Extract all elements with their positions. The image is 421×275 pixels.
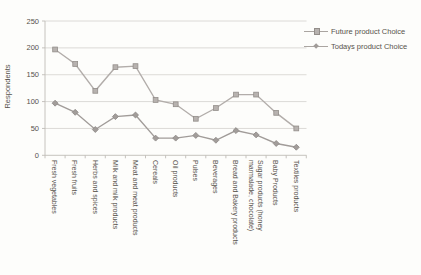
legend: Future product Choice Todays product Cho… <box>304 24 407 54</box>
diamond-marker <box>293 144 299 150</box>
diamond-marker-icon <box>313 43 319 49</box>
diamond-marker <box>253 132 259 138</box>
diamond-marker <box>213 137 219 143</box>
x-axis-label: Fresh vegetables <box>50 160 59 214</box>
y-axis-title: Respondents <box>3 57 12 117</box>
legend-item-today: Todays product Choice <box>304 39 407 54</box>
square-marker <box>294 126 299 131</box>
square-marker <box>274 110 279 115</box>
legend-label-today: Todays product Choice <box>331 42 407 51</box>
y-axis-tick-label: 200 <box>13 43 39 52</box>
square-marker <box>133 64 138 69</box>
square-marker <box>93 88 98 93</box>
legend-item-future: Future product Choice <box>304 24 407 39</box>
x-axis-label: Bread and Bakery products <box>231 160 240 245</box>
square-marker <box>173 102 178 107</box>
square-marker <box>254 92 259 97</box>
diamond-marker <box>193 132 199 138</box>
x-axis-label: Herbs and spices <box>90 160 99 214</box>
y-axis-tick-label: 0 <box>13 151 39 160</box>
x-axis-label: Oil products <box>170 160 179 197</box>
square-marker-icon <box>314 28 321 35</box>
series-line-future <box>55 50 296 129</box>
square-marker <box>234 92 239 97</box>
legend-label-future: Future product Choice <box>331 27 405 36</box>
legend-line <box>304 46 328 48</box>
x-axis-label: Fresh fruits <box>70 160 79 195</box>
x-axis-label: Baby Products <box>271 160 280 206</box>
line-chart: Respondents 050100150200250 Fresh vegeta… <box>0 0 421 275</box>
legend-line <box>304 31 328 33</box>
x-axis-label: Textiles products <box>291 160 300 212</box>
square-marker <box>153 98 158 103</box>
y-axis-tick-label: 50 <box>13 124 39 133</box>
diamond-marker <box>52 100 58 106</box>
x-axis-label: Beverages <box>211 160 220 193</box>
square-marker <box>113 65 118 70</box>
square-marker <box>73 62 78 67</box>
x-axis-label: Sugar products (honey marmalade, chocola… <box>247 160 264 231</box>
square-marker <box>193 116 198 121</box>
x-axis-label: Milk and milk products <box>110 160 119 229</box>
x-axis-label: Meat and meat products <box>130 160 139 236</box>
diamond-marker <box>173 135 179 141</box>
square-marker <box>53 47 58 52</box>
y-axis-tick-label: 250 <box>13 17 39 26</box>
y-axis-tick-label: 100 <box>13 97 39 106</box>
x-axis-label: Cereals <box>150 160 159 184</box>
x-axis-label: Pulses <box>191 160 200 181</box>
y-axis-tick-label: 150 <box>13 70 39 79</box>
diamond-marker <box>273 141 279 147</box>
square-marker <box>214 106 219 111</box>
